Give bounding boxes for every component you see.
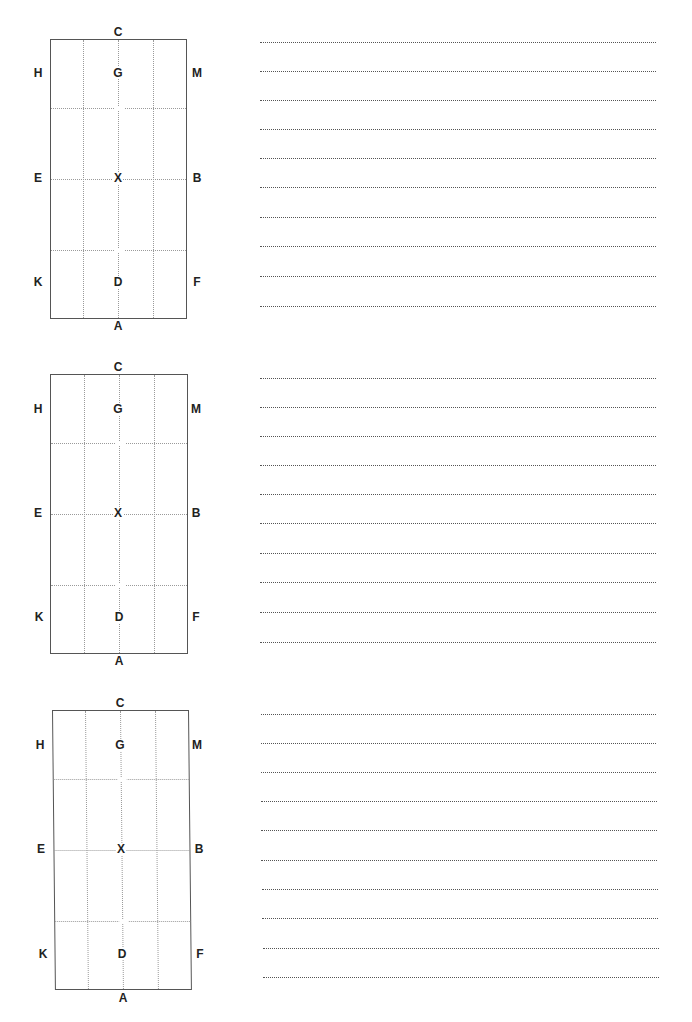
marker-x: X (116, 843, 126, 855)
marker-x: X (113, 172, 123, 184)
writing-line[interactable] (262, 889, 658, 890)
marker-f: F (196, 948, 203, 960)
marker-e: E (37, 843, 45, 855)
writing-line[interactable] (261, 743, 656, 744)
writing-line[interactable] (260, 378, 656, 379)
writing-line[interactable] (260, 523, 656, 524)
writing-line[interactable] (260, 494, 656, 495)
marker-x: X (113, 507, 123, 519)
writing-line[interactable] (260, 276, 656, 277)
writing-line[interactable] (262, 918, 658, 919)
writing-line[interactable] (260, 612, 656, 613)
writing-line[interactable] (260, 306, 656, 307)
writing-line[interactable] (261, 772, 656, 773)
writing-line[interactable] (260, 436, 656, 437)
writing-line[interactable] (260, 217, 656, 218)
marker-k: K (35, 611, 44, 623)
marker-k: K (39, 948, 48, 960)
marker-a: A (114, 320, 123, 332)
arena-block-2: C A H G M E X B K D F (0, 335, 692, 670)
arena-block-3: C A H G M E X B K D F (0, 671, 692, 1006)
marker-g: G (112, 403, 123, 415)
marker-k: K (34, 276, 43, 288)
marker-h: H (34, 67, 43, 79)
marker-m: M (192, 739, 202, 751)
marker-g: G (114, 739, 125, 751)
writing-line[interactable] (260, 42, 656, 43)
writing-line[interactable] (263, 948, 659, 949)
marker-f: F (192, 611, 199, 623)
marker-b: B (192, 507, 201, 519)
marker-h: H (34, 403, 43, 415)
marker-b: B (193, 172, 202, 184)
writing-line[interactable] (260, 158, 656, 159)
marker-d: D (117, 948, 128, 960)
marker-a: A (119, 992, 128, 1004)
marker-m: M (191, 403, 201, 415)
marker-f: F (193, 276, 200, 288)
writing-line[interactable] (260, 187, 656, 188)
marker-d: D (114, 611, 125, 623)
writing-line[interactable] (260, 100, 656, 101)
marker-c: C (114, 361, 123, 373)
writing-line[interactable] (261, 801, 657, 802)
marker-a: A (115, 655, 124, 667)
writing-line[interactable] (260, 642, 656, 643)
writing-line[interactable] (261, 830, 657, 831)
writing-line[interactable] (260, 407, 656, 408)
writing-line[interactable] (260, 553, 656, 554)
marker-e: E (34, 172, 42, 184)
writing-line[interactable] (261, 714, 656, 715)
marker-g: G (112, 67, 123, 79)
writing-line[interactable] (260, 465, 656, 466)
writing-line[interactable] (260, 246, 656, 247)
arena-block-1: C A H G M E X B K D F (0, 0, 692, 335)
writing-line[interactable] (261, 860, 657, 861)
writing-line[interactable] (260, 582, 656, 583)
marker-c: C (116, 697, 125, 709)
writing-line[interactable] (260, 71, 656, 72)
marker-m: M (192, 67, 202, 79)
marker-d: D (113, 276, 124, 288)
marker-b: B (195, 843, 204, 855)
writing-line[interactable] (263, 977, 659, 978)
marker-c: C (114, 26, 123, 38)
marker-e: E (34, 507, 42, 519)
marker-h: H (36, 739, 45, 751)
writing-line[interactable] (260, 129, 656, 130)
